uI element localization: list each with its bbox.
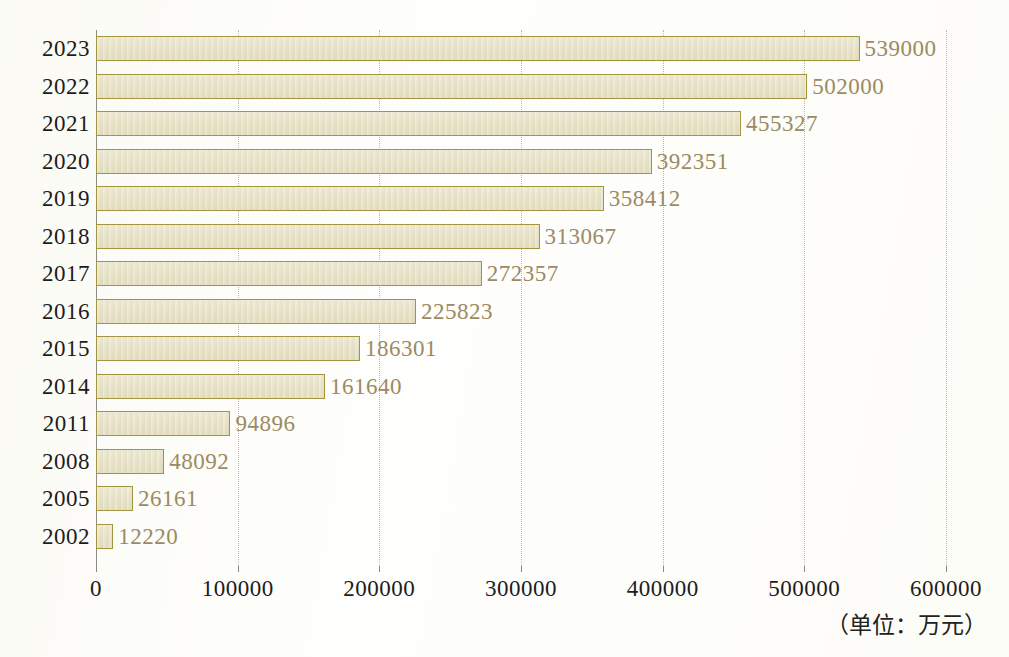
bar-2005[interactable]: [96, 486, 133, 511]
bar-row[interactable]: 225823: [96, 293, 946, 331]
bar-2018[interactable]: [96, 224, 540, 249]
category-label-2016: 2016: [2, 299, 90, 325]
bar-2020[interactable]: [96, 149, 652, 174]
bar-texture: [97, 525, 112, 548]
bar-texture: [97, 112, 740, 135]
bar-value-label-2008: 48092: [164, 449, 229, 474]
category-label-2020: 2020: [2, 149, 90, 175]
tick-mark-300000: [521, 566, 522, 572]
plot-area: 5390005020004553273923513584123130672723…: [96, 30, 946, 566]
bar-value-label-2023: 539000: [860, 36, 937, 61]
tick-label-500000: 500000: [768, 576, 840, 602]
bar-2016[interactable]: [96, 299, 416, 324]
bar-value-label-2015: 186301: [360, 336, 437, 361]
bar-texture: [97, 375, 324, 398]
category-label-2011: 2011: [2, 411, 90, 437]
category-label-2018: 2018: [2, 224, 90, 250]
tick-mark-0: [96, 566, 97, 572]
tick-mark-600000: [946, 566, 947, 572]
bar-2019[interactable]: [96, 186, 604, 211]
bar-row[interactable]: 12220: [96, 518, 946, 556]
bar-value-label-2017: 272357: [482, 261, 559, 286]
bar-row[interactable]: 186301: [96, 330, 946, 368]
category-label-2014: 2014: [2, 374, 90, 400]
bar-2015[interactable]: [96, 336, 360, 361]
bar-row[interactable]: 161640: [96, 368, 946, 406]
bar-texture: [97, 37, 859, 60]
bar-row[interactable]: 392351: [96, 143, 946, 181]
tick-label-300000: 300000: [485, 576, 557, 602]
bar-texture: [97, 187, 603, 210]
bar-texture: [97, 300, 415, 323]
tick-label-100000: 100000: [202, 576, 274, 602]
bar-row[interactable]: 502000: [96, 68, 946, 106]
tick-label-200000: 200000: [343, 576, 415, 602]
bar-2002[interactable]: [96, 524, 113, 549]
bar-2022[interactable]: [96, 74, 807, 99]
category-label-2023: 2023: [2, 36, 90, 62]
tick-label-0: 0: [90, 576, 102, 602]
bar-texture: [97, 150, 651, 173]
bar-value-label-2018: 313067: [540, 224, 617, 249]
category-label-2017: 2017: [2, 261, 90, 287]
bar-row[interactable]: 358412: [96, 180, 946, 218]
tick-mark-200000: [379, 566, 380, 572]
bar-texture: [97, 262, 481, 285]
bar-chart: 2023202220212020201920182017201620152014…: [0, 0, 1009, 657]
bar-2011[interactable]: [96, 411, 230, 436]
category-label-2021: 2021: [2, 111, 90, 137]
bar-texture: [97, 337, 359, 360]
category-label-2008: 2008: [2, 449, 90, 475]
bar-value-label-2005: 26161: [133, 486, 198, 511]
tick-label-600000: 600000: [910, 576, 982, 602]
category-label-2022: 2022: [2, 74, 90, 100]
category-label-2002: 2002: [2, 524, 90, 550]
bar-row[interactable]: 313067: [96, 218, 946, 256]
bar-2008[interactable]: [96, 449, 164, 474]
value-axis: 0100000200000300000400000500000600000: [96, 566, 946, 606]
bar-row[interactable]: 26161: [96, 480, 946, 518]
bar-texture: [97, 75, 806, 98]
bar-row[interactable]: 48092: [96, 443, 946, 481]
tick-mark-500000: [804, 566, 805, 572]
bar-value-label-2021: 455327: [741, 111, 818, 136]
bar-value-label-2011: 94896: [230, 411, 295, 436]
tick-label-400000: 400000: [627, 576, 699, 602]
category-label-2019: 2019: [2, 186, 90, 212]
bar-row[interactable]: 455327: [96, 105, 946, 143]
unit-annotation: （单位：万元）: [826, 606, 987, 640]
bar-2021[interactable]: [96, 111, 741, 136]
bar-2017[interactable]: [96, 261, 482, 286]
bar-row[interactable]: 272357: [96, 255, 946, 293]
bar-row[interactable]: 539000: [96, 30, 946, 68]
bar-2023[interactable]: [96, 36, 860, 61]
bar-value-label-2022: 502000: [807, 74, 884, 99]
category-label-2005: 2005: [2, 486, 90, 512]
gridline-600000: [946, 30, 947, 566]
tick-mark-400000: [663, 566, 664, 572]
bar-value-label-2016: 225823: [416, 299, 493, 324]
category-axis: 2023202220212020201920182017201620152014…: [0, 30, 90, 566]
bar-texture: [97, 412, 229, 435]
tick-mark-100000: [238, 566, 239, 572]
category-label-2015: 2015: [2, 336, 90, 362]
bar-row[interactable]: 94896: [96, 405, 946, 443]
bar-value-label-2019: 358412: [604, 186, 681, 211]
bar-texture: [97, 450, 163, 473]
bar-texture: [97, 225, 539, 248]
bar-texture: [97, 487, 132, 510]
bar-value-label-2002: 12220: [113, 524, 178, 549]
bar-value-label-2014: 161640: [325, 374, 402, 399]
bar-2014[interactable]: [96, 374, 325, 399]
bar-value-label-2020: 392351: [652, 149, 729, 174]
